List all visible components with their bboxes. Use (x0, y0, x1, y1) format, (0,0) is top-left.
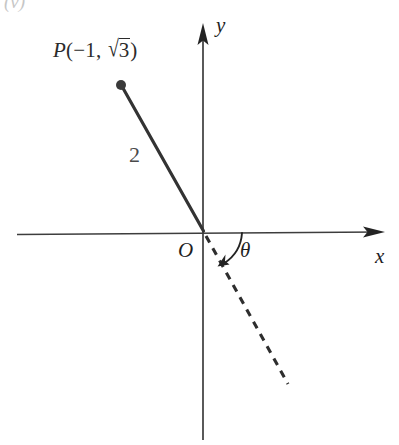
point-p-radicand: 3 (119, 38, 131, 62)
radical-sign: √ (108, 35, 119, 63)
x-axis-line (17, 232, 379, 235)
origin-label: O (178, 238, 193, 263)
point-p-marker (116, 80, 126, 90)
square-root-icon: √3 (107, 38, 130, 63)
coordinate-plane-figure (0, 0, 399, 445)
clipped-caption-remnant: (v) (4, 0, 25, 13)
theta-label: θ (240, 238, 250, 263)
point-p-label: P(−1, √3) (53, 38, 138, 63)
point-p-letter: P (53, 38, 66, 62)
point-p-x-value: −1 (73, 38, 96, 62)
segment-length-label: 2 (129, 142, 140, 168)
y-axis-label: y (216, 13, 225, 38)
point-p-close-paren: ) (130, 38, 137, 62)
point-p-comma: , (96, 38, 107, 62)
theta-angle-arc (218, 233, 243, 267)
x-axis-label: x (375, 244, 384, 269)
